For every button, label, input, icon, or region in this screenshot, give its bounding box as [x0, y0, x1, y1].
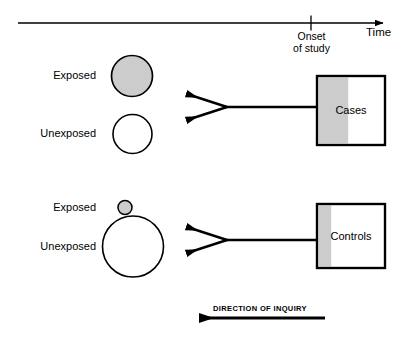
time-axis-label: Time	[366, 26, 391, 39]
cases-exposed-label: Exposed	[18, 69, 96, 82]
controls-unexposed-circle	[103, 216, 164, 277]
onset-of-study-label: Onset of study	[289, 30, 334, 54]
onset-label-line2: of study	[289, 42, 334, 54]
direction-of-inquiry-label: DIRECTION OF INQUIRY	[190, 305, 330, 314]
onset-label-line1: Onset	[289, 30, 334, 42]
case-control-diagram: Time Onset of study Exposed Unexposed Ex…	[0, 0, 407, 339]
controls-box-label: Controls	[317, 230, 385, 243]
cases-unexposed-circle	[113, 115, 152, 154]
cases-unexposed-label: Unexposed	[8, 127, 96, 140]
time-axis	[18, 16, 383, 31]
controls-unexposed-label: Unexposed	[8, 240, 96, 253]
controls-exposed-label: Exposed	[18, 201, 96, 214]
controls-fork-arrow	[187, 227, 316, 253]
cases-circles	[112, 56, 153, 154]
controls-circles	[103, 201, 164, 278]
cases-exposed-circle	[112, 56, 153, 97]
cases-fork-arrow	[187, 94, 316, 120]
cases-box-label: Cases	[317, 104, 385, 117]
controls-exposed-circle	[118, 201, 132, 215]
diagram-graphics	[0, 0, 407, 339]
